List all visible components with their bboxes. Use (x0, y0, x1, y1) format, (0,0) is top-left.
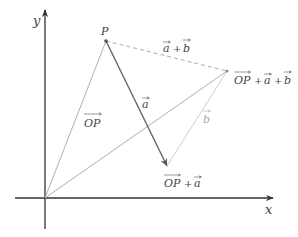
svg-text:OP: OP (164, 177, 181, 190)
svg-text:+: + (173, 43, 181, 54)
svg-text:+: + (184, 178, 192, 189)
vector-addition-diagram: x y P OP a b a + b OP (0, 0, 298, 237)
point-OP-a-b (226, 70, 229, 73)
label-OP-plus-a-plus-b: OP + a + b (234, 71, 292, 87)
svg-text:OP: OP (84, 117, 101, 130)
svg-text:b: b (203, 113, 210, 126)
x-axis-label: x (265, 202, 273, 217)
svg-text:+: + (254, 75, 262, 86)
svg-text:b: b (183, 42, 190, 55)
svg-text:OP: OP (234, 74, 251, 87)
vector-b (167, 71, 227, 166)
label-b: b (203, 110, 211, 126)
label-OP: OP (84, 113, 102, 131)
svg-text:b: b (284, 74, 291, 87)
label-a: a (142, 97, 150, 111)
svg-text:a: a (142, 98, 149, 111)
y-axis-label: y (32, 13, 41, 28)
svg-text:a: a (264, 74, 271, 87)
label-OP-plus-a: OP + a (164, 174, 202, 190)
svg-text:a: a (194, 177, 201, 190)
svg-text:a: a (163, 42, 170, 55)
point-P (104, 39, 108, 43)
svg-text:+: + (274, 75, 282, 86)
label-P: P (100, 25, 109, 38)
vector-a (106, 41, 167, 166)
label-a-plus-b: a + b (163, 39, 191, 55)
